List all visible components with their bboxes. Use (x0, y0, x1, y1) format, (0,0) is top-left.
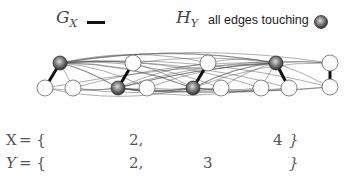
white-node (65, 80, 81, 96)
white-node (322, 55, 338, 71)
gray-node (269, 56, 283, 70)
set-y-close: } (289, 154, 299, 172)
set-x-item-2: 2, (129, 131, 143, 149)
set-x-open: = { (19, 131, 46, 149)
set-y-row: Y = { 2, 3 } (6, 154, 346, 174)
gray-node (53, 56, 67, 70)
white-node (213, 80, 229, 96)
white-node (253, 80, 269, 96)
white-node (125, 55, 141, 71)
set-x-item-4: 4 (273, 131, 283, 149)
set-x-row: X = { 2, 4 } (6, 131, 346, 151)
white-node (322, 79, 338, 95)
set-x-label: X (6, 131, 17, 149)
white-node (139, 80, 155, 96)
set-y-item-3: 3 (203, 154, 213, 172)
white-node (37, 80, 53, 96)
gray-node (186, 81, 200, 95)
set-y-label: Y (6, 154, 16, 172)
set-x-close: } (289, 131, 299, 149)
gray-node (111, 81, 125, 95)
white-node (200, 55, 216, 71)
set-y-item-2: 2, (129, 154, 143, 172)
thin-edge (60, 61, 261, 88)
graph-diagram (0, 0, 353, 120)
white-node (281, 80, 297, 96)
set-y-open: = { (19, 154, 46, 172)
